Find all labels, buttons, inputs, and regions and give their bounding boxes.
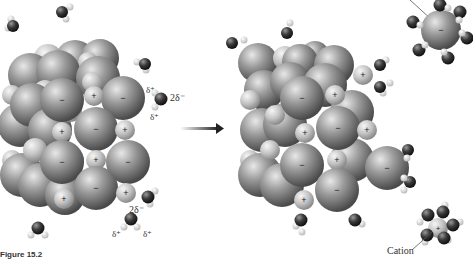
water-molecule xyxy=(121,213,141,231)
water-molecule xyxy=(226,37,248,50)
svg-text:−: − xyxy=(59,157,64,167)
figure-caption: Figure 15.2 xyxy=(0,250,42,259)
water-molecule xyxy=(293,214,308,236)
svg-text:−: − xyxy=(93,124,98,134)
svg-text:−: − xyxy=(438,25,443,35)
water-molecule xyxy=(401,175,417,194)
svg-text:+: + xyxy=(93,155,98,165)
water-molecule xyxy=(134,58,152,74)
water-molecule xyxy=(374,80,394,97)
partial-positive-label: δ⁺ xyxy=(112,230,121,239)
svg-text:+: + xyxy=(122,125,127,135)
svg-text:−: − xyxy=(384,163,389,173)
water-molecule xyxy=(56,4,74,23)
partial-positive-label: δ⁺ xyxy=(143,230,152,239)
svg-text:+: + xyxy=(302,128,307,138)
svg-text:+: + xyxy=(436,224,441,233)
hydrated-anion: − xyxy=(407,0,473,65)
partial-negative-label: 2δ⁻ xyxy=(129,205,144,215)
svg-text:−: − xyxy=(59,95,64,105)
svg-text:+: + xyxy=(61,194,66,204)
water-molecule xyxy=(281,20,294,40)
svg-text:+: + xyxy=(334,155,339,165)
svg-text:−: − xyxy=(335,123,340,133)
svg-text:−: − xyxy=(299,160,304,170)
water-molecule xyxy=(349,214,366,228)
svg-text:+: + xyxy=(91,91,96,101)
svg-text:−: − xyxy=(125,157,130,167)
water-molecule xyxy=(5,16,20,33)
dissolution-diagram: − − + + − + − + − + − + xyxy=(0,0,473,259)
partial-negative-label: 2δ⁻ xyxy=(170,93,185,103)
svg-text:+: + xyxy=(332,90,337,100)
water-molecule xyxy=(28,222,49,239)
water-molecule xyxy=(374,57,390,72)
cation-label: Cation xyxy=(387,245,414,256)
partial-positive-label: δ⁺ xyxy=(146,86,155,95)
svg-text:+: + xyxy=(301,195,306,205)
water-molecule xyxy=(142,188,159,208)
svg-text:−: − xyxy=(93,183,98,193)
svg-text:+: + xyxy=(123,188,128,198)
svg-text:+: + xyxy=(364,125,369,135)
svg-text:−: − xyxy=(334,185,339,195)
svg-text:+: + xyxy=(59,127,64,137)
hydrated-cation: + xyxy=(412,202,464,251)
water-molecule xyxy=(402,144,414,162)
svg-text:−: − xyxy=(120,93,125,103)
right-arrow-icon xyxy=(180,123,224,134)
svg-text:+: + xyxy=(360,70,365,80)
svg-text:−: − xyxy=(299,93,304,103)
partial-positive-label: δ⁺ xyxy=(150,113,159,122)
